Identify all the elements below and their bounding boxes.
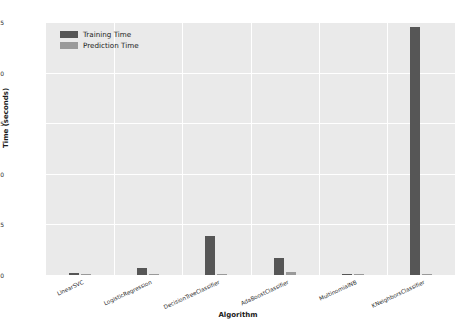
y-axis-label: Time (seconds) <box>2 88 10 148</box>
x-axis-tick-4: MultinomialNB <box>297 279 358 311</box>
chart-legend: Training TimePrediction Time <box>56 26 144 54</box>
plot-area <box>46 22 455 275</box>
bar-MultinomialNB-training-time <box>342 274 352 275</box>
bar-KNeighborsClassifier-training-time <box>410 27 420 275</box>
gridline-vertical <box>114 22 115 275</box>
y-axis-tick-2: 10 <box>0 170 4 177</box>
legend-label-0: Training Time <box>83 30 131 39</box>
bar-AdaBoostClassifier-training-time <box>274 258 284 275</box>
x-axis-tick-2: DecisionTreeClassifier <box>160 279 221 311</box>
x-axis-tick-3: AdaBoostClassifier <box>229 279 290 311</box>
y-axis-tick-4: 20 <box>0 69 4 76</box>
gridline-vertical <box>387 22 388 275</box>
legend-swatch-training-time <box>60 31 78 38</box>
gridline-vertical <box>251 22 252 275</box>
gridline-vertical <box>182 22 183 275</box>
legend-item-1: Prediction Time <box>60 40 139 51</box>
bar-KNeighborsClassifier-prediction-time <box>422 274 432 275</box>
x-axis-tick-1: LogisticRegression <box>92 279 153 311</box>
x-axis-tick-0: LinearSVC <box>24 279 85 311</box>
y-axis-tick-3: 15 <box>0 120 4 127</box>
chart-figure: Time (seconds) 0510152025 LinearSVCLogis… <box>0 0 476 330</box>
bar-LinearSVC-prediction-time <box>81 274 91 275</box>
bar-DecisionTreeClassifier-training-time <box>205 236 215 275</box>
legend-item-0: Training Time <box>60 29 139 40</box>
x-axis-tick-5: KNeighborsClassifier <box>365 279 426 311</box>
y-axis-tick-1: 5 <box>0 221 4 228</box>
y-axis-tick-0: 0 <box>0 272 4 279</box>
bar-DecisionTreeClassifier-prediction-time <box>217 274 227 275</box>
gridline-vertical <box>319 22 320 275</box>
bar-LogisticRegression-training-time <box>137 268 147 275</box>
legend-label-1: Prediction Time <box>83 41 139 50</box>
bar-LinearSVC-training-time <box>69 273 79 275</box>
legend-swatch-prediction-time <box>60 42 78 49</box>
y-axis-tick-5: 25 <box>0 19 4 26</box>
bar-LogisticRegression-prediction-time <box>149 274 159 275</box>
bar-MultinomialNB-prediction-time <box>354 274 364 275</box>
x-axis-label: Algorithm <box>0 311 476 319</box>
bar-AdaBoostClassifier-prediction-time <box>286 272 296 275</box>
